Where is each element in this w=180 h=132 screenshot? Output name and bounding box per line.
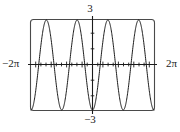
y-min-label: −3 xyxy=(0,114,180,125)
y-max-label: 3 xyxy=(0,3,180,14)
graph-figure: 3 −3 −2π 2π xyxy=(0,0,180,132)
x-max-label: 2π xyxy=(166,58,177,69)
x-min-label: −2π xyxy=(2,58,19,69)
